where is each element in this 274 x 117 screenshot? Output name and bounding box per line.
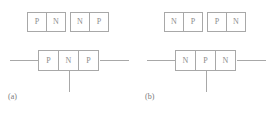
region-block: N bbox=[226, 12, 246, 32]
region-block: N bbox=[175, 50, 196, 71]
junction-pair-a-left: P N bbox=[27, 12, 66, 32]
region-block: P bbox=[38, 50, 59, 71]
region-block: P bbox=[207, 12, 227, 32]
region-block: N bbox=[215, 50, 236, 71]
region-block: P bbox=[183, 12, 203, 32]
transistor-a: P N P bbox=[38, 50, 99, 71]
collector-lead bbox=[10, 60, 39, 61]
region-block: P bbox=[27, 12, 47, 32]
panel-a: P N N P P N P (a) bbox=[0, 0, 137, 117]
panel-b: N P P N N P N (b) bbox=[137, 0, 274, 117]
base-lead bbox=[206, 71, 207, 92]
collector-lead bbox=[147, 60, 176, 61]
region-block: P bbox=[195, 50, 216, 71]
caption-b: (b) bbox=[145, 93, 154, 101]
transistor-junction-figure: P N N P P N P (a) N P P N bbox=[0, 0, 274, 117]
region-block: N bbox=[70, 12, 90, 32]
emitter-lead bbox=[100, 60, 129, 61]
region-block: P bbox=[78, 50, 99, 71]
region-block: N bbox=[58, 50, 79, 71]
base-lead bbox=[69, 71, 70, 92]
caption-a: (a) bbox=[8, 93, 17, 101]
region-block: P bbox=[89, 12, 109, 32]
transistor-b: N P N bbox=[175, 50, 236, 71]
junction-pair-b-left: N P bbox=[164, 12, 203, 32]
region-block: N bbox=[164, 12, 184, 32]
region-block: N bbox=[46, 12, 66, 32]
junction-pair-a-right: N P bbox=[70, 12, 109, 32]
emitter-lead bbox=[237, 60, 266, 61]
junction-pair-b-right: P N bbox=[207, 12, 246, 32]
